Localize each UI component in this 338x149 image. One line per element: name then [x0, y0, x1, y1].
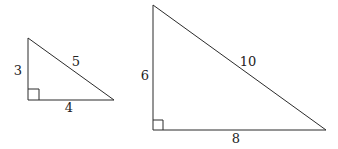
- large-hypotenuse-label: 10: [240, 54, 257, 69]
- small-horizontal-leg-label: 4: [65, 100, 73, 115]
- large-horizontal-leg-label: 8: [232, 131, 240, 146]
- small-hypotenuse-label: 5: [72, 54, 80, 69]
- large-vertical-leg-label: 6: [141, 68, 149, 83]
- small-right-angle-marker: [28, 89, 39, 100]
- small-vertical-leg-label: 3: [14, 63, 22, 78]
- similar-triangles-diagram: 3 4 5 6 8 10: [0, 0, 338, 149]
- large-triangle: 6 8 10: [141, 5, 326, 146]
- large-right-angle-marker: [153, 120, 163, 130]
- small-triangle-outline: [28, 38, 114, 100]
- small-triangle: 3 4 5: [14, 38, 114, 115]
